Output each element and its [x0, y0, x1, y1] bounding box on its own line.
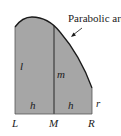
right-height-label: r: [96, 98, 100, 109]
middle-height-label: m: [57, 69, 65, 80]
left-width-label: h: [30, 100, 36, 111]
parabolic-arc-annotation: Parabolic arc: [68, 13, 121, 24]
point-l-label: L: [12, 118, 18, 129]
point-m-label: M: [49, 118, 58, 129]
left-height-label: l: [20, 61, 23, 72]
shaded-region: [15, 17, 92, 114]
right-width-label: h: [68, 100, 74, 111]
point-r-label: R: [88, 118, 95, 129]
